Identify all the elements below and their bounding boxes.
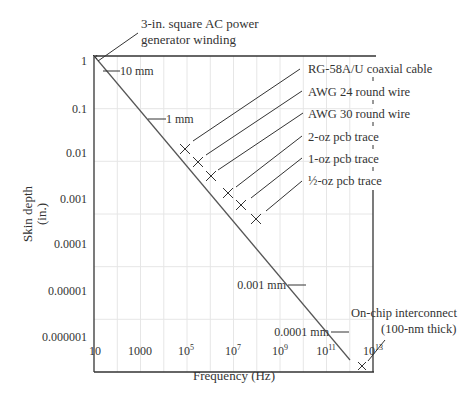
pcb1-label: 1-oz pcb trace [308, 152, 379, 166]
x-tick: 107 [225, 343, 241, 358]
x-tick: 105 [178, 343, 194, 358]
x-tick: 1000 [128, 344, 152, 358]
x-tick: 1011 [316, 343, 336, 358]
leader-lines [98, 33, 385, 361]
mm-10-label: 10 mm [120, 64, 154, 78]
x-tick: 109 [272, 343, 288, 358]
awg24-label: AWG 24 round wire [308, 85, 411, 99]
coax-label: RG-58A/U coaxial cable [308, 62, 433, 76]
mm-0001-label: 0.001 mm [237, 278, 286, 292]
grid [94, 56, 373, 372]
y-tick: 0.1 [72, 102, 87, 116]
onchip-label-1: On-chip interconnect [351, 306, 457, 320]
y-axis-title-line1: Skin depth [20, 186, 35, 242]
y-tick: 0.0001 [54, 237, 87, 251]
x-axis-title: Frequency (Hz) [193, 368, 275, 383]
mm-00001-label: 0.0001 mm [274, 325, 329, 339]
x-tick: 10 [89, 344, 101, 358]
skin-depth-line [95, 57, 350, 360]
pcbhalf-label: ½-oz pcb trace [308, 174, 382, 188]
x-axis-ticks: 10 1000 105 107 109 1011 1013 [89, 343, 383, 358]
y-tick: 0.001 [60, 192, 87, 206]
awg30-label: AWG 30 round wire [308, 107, 411, 121]
y-tick: 0.00001 [48, 284, 87, 298]
y-tick: 0.000001 [42, 330, 87, 344]
y-axis-title: Skin depth (in.) [20, 186, 49, 242]
skin-depth-chart: 10 mm 1 mm 0.001 mm 0.0001 mm 3-in. squa… [0, 0, 472, 398]
y-axis-title-line2: (in.) [34, 203, 49, 225]
generator-label-1: 3-in. square AC power [141, 16, 259, 31]
x-tick: 1013 [363, 343, 383, 358]
y-tick: 0.01 [66, 146, 87, 160]
y-axis-ticks: 1 0.1 0.01 0.001 0.0001 0.00001 0.000001 [42, 54, 87, 344]
generator-label-2: generator winding [141, 32, 236, 47]
onchip-label-2: (100-nm thick) [381, 322, 456, 336]
y-tick: 1 [81, 54, 87, 68]
mm-1-label: 1 mm [166, 112, 194, 126]
conductor-markers [93, 55, 366, 370]
pcb2-label: 2-oz pcb trace [308, 130, 379, 144]
